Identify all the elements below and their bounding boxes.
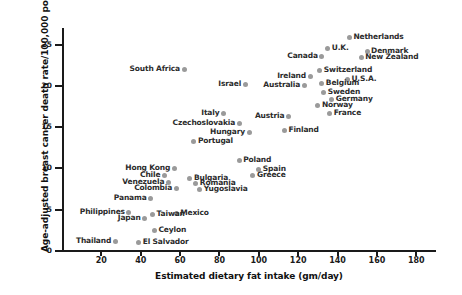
- data-point-label: Czechoslovakia: [173, 119, 236, 127]
- y-tick-mark: [55, 126, 62, 128]
- x-axis-line: [62, 250, 436, 252]
- data-point-label: El Salvador: [143, 238, 189, 246]
- x-tick-label: 120: [283, 256, 313, 265]
- data-point: [321, 90, 326, 95]
- data-point-label: Greece: [257, 171, 286, 179]
- data-point: [187, 176, 192, 181]
- x-tick-label: 40: [126, 256, 156, 265]
- data-point-label: Canada: [287, 52, 318, 60]
- data-point-label: Portugal: [198, 137, 233, 145]
- data-point: [282, 128, 287, 133]
- data-point: [250, 173, 255, 178]
- data-point: [319, 54, 324, 59]
- x-tick-label: 180: [401, 256, 431, 265]
- data-point-label: Italy: [201, 109, 219, 117]
- data-point: [302, 83, 307, 88]
- data-point-label: Netherlands: [353, 33, 403, 41]
- data-point: [191, 139, 196, 144]
- data-point: [347, 35, 352, 40]
- data-point: [142, 216, 147, 221]
- x-tick-label: 20: [86, 256, 116, 265]
- data-point: [237, 158, 242, 163]
- data-point: [148, 196, 153, 201]
- data-point-label: Hungary: [210, 128, 245, 136]
- scatter-chart: 051015202520406080100120140160180 Nether…: [0, 0, 462, 295]
- data-point: [237, 121, 242, 126]
- y-tick-mark: [55, 167, 62, 169]
- data-point-label: Finland: [288, 126, 318, 134]
- x-tick-label: 100: [244, 256, 274, 265]
- data-point-label: Austria: [255, 112, 284, 120]
- data-point: [197, 187, 202, 192]
- data-point-label: Thailand: [76, 237, 111, 245]
- data-point-label: Australia: [263, 81, 300, 89]
- y-axis-title: Age-adjusted breast cancer death rate/10…: [40, 2, 50, 252]
- data-point: [286, 114, 291, 119]
- y-tick-mark: [55, 250, 62, 252]
- data-point-label: Taiwan: [157, 210, 185, 218]
- data-point: [136, 240, 141, 245]
- data-point: [308, 74, 313, 79]
- data-point: [221, 111, 226, 116]
- data-point: [315, 103, 320, 108]
- x-tick-label: 80: [204, 256, 234, 265]
- x-tick-label: 160: [362, 256, 392, 265]
- data-point-label: Belgium: [326, 79, 359, 87]
- data-point-label: Panama: [114, 194, 147, 202]
- data-point-label: Ceylon: [159, 226, 187, 234]
- y-axis-line: [62, 28, 64, 252]
- data-point: [317, 68, 322, 73]
- y-tick-mark: [55, 85, 62, 87]
- data-point: [325, 46, 330, 51]
- data-point: [113, 239, 118, 244]
- data-point: [150, 212, 155, 217]
- y-tick-mark: [55, 44, 62, 46]
- data-point: [327, 111, 332, 116]
- x-axis-title: Estimated dietary fat intake (gm/day): [62, 271, 436, 281]
- data-point: [359, 55, 364, 60]
- data-point-label: Yugoslavia: [204, 185, 248, 193]
- data-point-label: South Africa: [130, 65, 180, 73]
- data-point: [172, 166, 177, 171]
- y-tick-mark: [55, 209, 62, 211]
- data-point-label: France: [334, 109, 361, 117]
- data-point: [152, 228, 157, 233]
- data-point-label: U.K.: [332, 44, 349, 52]
- data-point-label: New Zealand: [365, 53, 418, 61]
- x-tick-label: 60: [165, 256, 195, 265]
- data-point: [243, 82, 248, 87]
- data-point: [319, 81, 324, 86]
- data-point: [174, 186, 179, 191]
- data-point-label: Ireland: [277, 72, 306, 80]
- data-point: [193, 181, 198, 186]
- data-point: [182, 67, 187, 72]
- data-point: [247, 130, 252, 135]
- data-point-label: Israel: [218, 80, 241, 88]
- x-tick-label: 140: [323, 256, 353, 265]
- data-point-label: Japan: [118, 214, 141, 222]
- data-point-label: Colombia: [134, 184, 172, 192]
